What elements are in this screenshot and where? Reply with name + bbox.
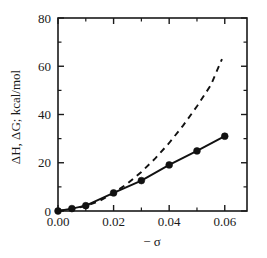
chart-figure: 0.000.020.040.06020406080 − σ ΔH, ΔG; kc… [0,0,267,258]
data-point-marker [166,162,173,169]
line-chart: 0.000.020.040.06020406080 − σ ΔH, ΔG; kc… [0,0,267,258]
data-point-marker [69,205,76,212]
x-axis-title: − σ [143,234,161,249]
x-tick-label: 0.04 [158,214,181,229]
y-tick-label: 40 [38,107,51,122]
series-line-dashed [58,59,222,211]
data-point-marker [55,208,62,215]
data-point-marker [138,177,145,184]
x-tick-label: 0.02 [102,214,125,229]
data-point-marker [194,148,201,155]
x-tick-label: 0.06 [213,214,236,229]
y-tick-label: 60 [38,59,51,74]
axis-tick-marks [58,18,247,211]
data-point-marker [82,202,89,209]
plot-box-border [58,18,247,211]
data-point-marker [221,133,228,140]
data-point-marker [110,190,117,197]
y-tick-label: 80 [38,11,51,26]
series-markers-solid [55,133,229,215]
axis-tick-labels: 0.000.020.040.06020406080 [38,11,237,230]
series-line-solid [58,136,225,211]
y-tick-label: 20 [38,155,51,170]
plot-frame [58,18,247,211]
data-series-group [55,59,229,214]
y-tick-label: 0 [45,204,52,219]
y-axis-title: ΔH, ΔG; kcal/mol [8,69,23,164]
